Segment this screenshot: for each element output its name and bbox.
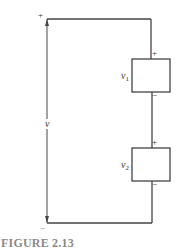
total-voltage-minus: − (40, 224, 45, 233)
element-2-subscript: 2 (125, 164, 129, 172)
element-2-voltage-label: v2 (121, 160, 129, 172)
figure-canvas: + v − + v1 − + v2 − FIGURE 2.13 (0, 0, 189, 251)
element-2-minus: − (152, 180, 157, 189)
element-box-1 (132, 59, 170, 92)
element-1-plus: + (152, 49, 157, 58)
element-box-2 (132, 148, 170, 181)
total-voltage-plus: + (38, 11, 43, 20)
element-2-plus: + (152, 138, 157, 147)
arrow-down-icon (45, 216, 49, 223)
element-1-minus: − (152, 91, 157, 100)
total-voltage-label: v (44, 119, 50, 129)
element-1-voltage-label: v1 (121, 71, 129, 83)
element-1-subscript: 1 (125, 75, 129, 83)
arrow-up-icon (45, 19, 49, 26)
figure-caption: FIGURE 2.13 (1, 236, 74, 251)
series-circuit-diagram (0, 0, 189, 251)
